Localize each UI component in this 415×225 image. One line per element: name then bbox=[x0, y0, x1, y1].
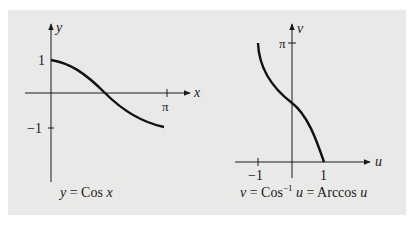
tick-label-pi: π bbox=[279, 36, 286, 51]
u-axis-label: u bbox=[375, 154, 382, 169]
tick-label-neg-one: −1 bbox=[248, 168, 263, 183]
tick-label-one: 1 bbox=[320, 168, 327, 183]
tick-label-one: 1 bbox=[38, 53, 45, 68]
cos-chart: y x 1 −1 π y = Cos x bbox=[25, 20, 201, 200]
x-axis-label: x bbox=[193, 85, 201, 100]
arccos-curve bbox=[258, 43, 324, 162]
y-axis-label: y bbox=[54, 20, 63, 35]
cos-caption: y = Cos x bbox=[58, 185, 113, 200]
v-axis-label: v bbox=[297, 21, 304, 36]
arccos-caption: v = Cos−1 u = Arccos u bbox=[240, 183, 367, 200]
figure-svg: y x 1 −1 π y = Cos x v u π −1 1 v = Cos−… bbox=[0, 0, 415, 225]
tick-label-pi: π bbox=[162, 99, 169, 114]
tick-label-neg-one: −1 bbox=[27, 121, 42, 136]
arccos-chart: v u π −1 1 v = Cos−1 u = Arccos u bbox=[235, 21, 382, 200]
